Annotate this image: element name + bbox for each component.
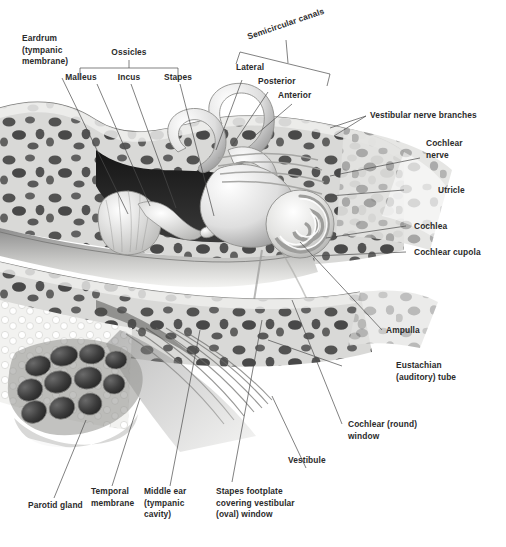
label-stapes-footplate: Stapes footplate covering vestibular (ov…: [216, 486, 316, 521]
label-lateral: Lateral: [236, 62, 282, 74]
label-parotid-gland: Parotid gland: [28, 500, 112, 512]
ear-anatomy-figure: Eardrum (tympanic membrane) Ossicles Mal…: [0, 0, 506, 547]
label-cochlear-nerve: Cochlear nerve: [426, 138, 498, 161]
label-posterior: Posterior: [258, 76, 314, 88]
label-ampulla: Ampulla: [386, 325, 448, 337]
label-incus: Incus: [108, 72, 150, 84]
label-anterior: Anterior: [278, 90, 332, 102]
label-stapes: Stapes: [155, 72, 201, 84]
label-vestibule: Vestibule: [288, 455, 350, 467]
label-malleus: Malleus: [57, 72, 105, 84]
label-vestibular-nerve-branches: Vestibular nerve branches: [370, 110, 506, 122]
label-cochlear-round-window: Cochlear (round) window: [348, 419, 446, 442]
label-utricle: Utricle: [438, 185, 500, 197]
label-eardrum: Eardrum (tympanic membrane): [22, 33, 92, 68]
label-cochlear-cupola: Cochlear cupola: [414, 247, 504, 259]
label-cochlea: Cochlea: [414, 221, 476, 233]
label-middle-ear: Middle ear (tympanic cavity): [144, 486, 214, 521]
label-ossicles: Ossicles: [100, 47, 158, 59]
label-eustachian-tube: Eustachian (auditory) tube: [396, 360, 492, 383]
